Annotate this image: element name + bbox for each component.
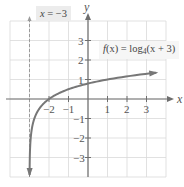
- y-axis-arrow-icon: [85, 13, 91, 20]
- y-tick-label: −3: [73, 152, 85, 164]
- asymptote-equation: = −3: [45, 8, 67, 19]
- function-arg: (x) = log: [106, 43, 143, 54]
- x-tick-label: −2: [43, 103, 55, 115]
- log-function-graph: x y −2−1123−3−2−1123: [0, 0, 184, 187]
- y-tick-label: −1: [73, 113, 85, 125]
- asymptote-label: x = −3: [36, 6, 71, 21]
- asymptote-arrow-icon: [28, 16, 32, 21]
- x-tick-label: 1: [105, 103, 111, 115]
- function-label: f(x) = log4(x + 3): [99, 41, 179, 59]
- curve-start-arrow-icon: [27, 168, 33, 177]
- y-tick-label: −2: [73, 132, 85, 144]
- x-tick-label: 3: [144, 103, 150, 115]
- y-tick-label: 3: [78, 35, 84, 47]
- x-axis-label: x: [176, 92, 183, 106]
- curve-end-arrow-icon: [149, 70, 158, 76]
- x-tick-label: 2: [124, 103, 130, 115]
- y-tick-label: 1: [78, 74, 84, 86]
- y-axis-label: y: [83, 0, 90, 14]
- x-axis-arrow-icon: [167, 96, 174, 102]
- function-rest: (x + 3): [147, 43, 176, 54]
- y-tick-label: 2: [78, 54, 84, 66]
- function-curve: [30, 73, 157, 175]
